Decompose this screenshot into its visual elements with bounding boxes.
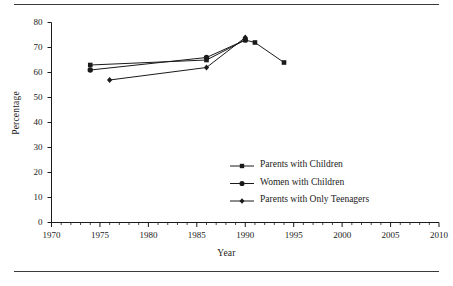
y-tick-label: 0 xyxy=(17,217,43,227)
y-axis-title: Percentage xyxy=(11,78,21,148)
x-tick-label: 1995 xyxy=(274,230,314,240)
y-tick-label: 70 xyxy=(17,42,43,52)
legend-item-label: Parents with Only Teenagers xyxy=(260,194,369,204)
data-series-group xyxy=(88,35,287,84)
y-tick-label: 10 xyxy=(17,192,43,202)
y-tick-label: 30 xyxy=(17,142,43,152)
x-tick-label: 1990 xyxy=(225,230,265,240)
x-tick-label: 2005 xyxy=(371,230,411,240)
x-tick-label: 1975 xyxy=(80,230,120,240)
legend-item-label: Women with Children xyxy=(260,177,344,187)
line-chart-plot xyxy=(0,0,453,286)
legend-marker-group xyxy=(230,164,254,204)
legend-item-label: Parents with Children xyxy=(260,159,343,169)
y-tick-label: 20 xyxy=(17,167,43,177)
x-tick-label: 2000 xyxy=(322,230,362,240)
figure-container: Percentage Year 010203040506070801970197… xyxy=(0,0,453,286)
y-tick-label: 40 xyxy=(17,117,43,127)
axes-group xyxy=(48,23,440,228)
x-axis-title: Year xyxy=(0,248,453,258)
x-tick-label: 1985 xyxy=(177,230,217,240)
x-tick-label: 2010 xyxy=(419,230,453,240)
y-tick-label: 80 xyxy=(17,17,43,27)
x-tick-label: 1980 xyxy=(128,230,168,240)
y-tick-label: 60 xyxy=(17,67,43,77)
y-tick-label: 50 xyxy=(17,92,43,102)
x-tick-label: 1970 xyxy=(32,230,72,240)
